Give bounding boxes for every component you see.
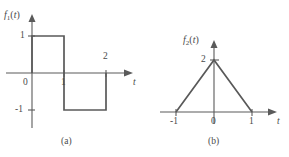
panel-caption-a: (a) (61, 136, 72, 146)
chart-panel-a: f1(t) 1 -1 0 1 2 t (a) (0, 0, 150, 157)
x-tick-label-a-0: 0 (23, 78, 28, 88)
chart-b-svg (150, 0, 289, 135)
x-axis-arrowhead-b (268, 109, 277, 116)
x-axis-label-b: t (277, 117, 280, 127)
x-tick-label-b-1: 1 (249, 117, 254, 127)
y-tick-label-a-1: 1 (20, 31, 25, 41)
figure-container: f1(t) 1 -1 0 1 2 t (a) f2(t) 2 -1 0 (0, 0, 289, 157)
function-label-f2: f2(t) (183, 35, 199, 47)
y-axis-arrowhead-b (211, 40, 218, 48)
x-tick-label-a-2: 2 (103, 52, 108, 62)
x-tick-label-b-0: 0 (211, 117, 216, 127)
x-tick-label-a-1: 1 (61, 78, 66, 88)
x-axis-label-a: t (133, 78, 136, 88)
x-tick-label-b-minus1: -1 (170, 117, 178, 127)
function-label-f1: f1(t) (4, 10, 20, 22)
x-axis-arrowhead-a (124, 70, 133, 77)
panel-caption-b: (b) (208, 136, 219, 146)
y-tick-label-a-minus1: -1 (15, 105, 23, 115)
chart-panel-b: f2(t) 2 -1 0 1 t (b) (150, 0, 289, 157)
y-axis-arrowhead-a (29, 14, 36, 22)
y-tick-label-b-2: 2 (201, 55, 206, 65)
chart-a-svg (0, 0, 150, 135)
